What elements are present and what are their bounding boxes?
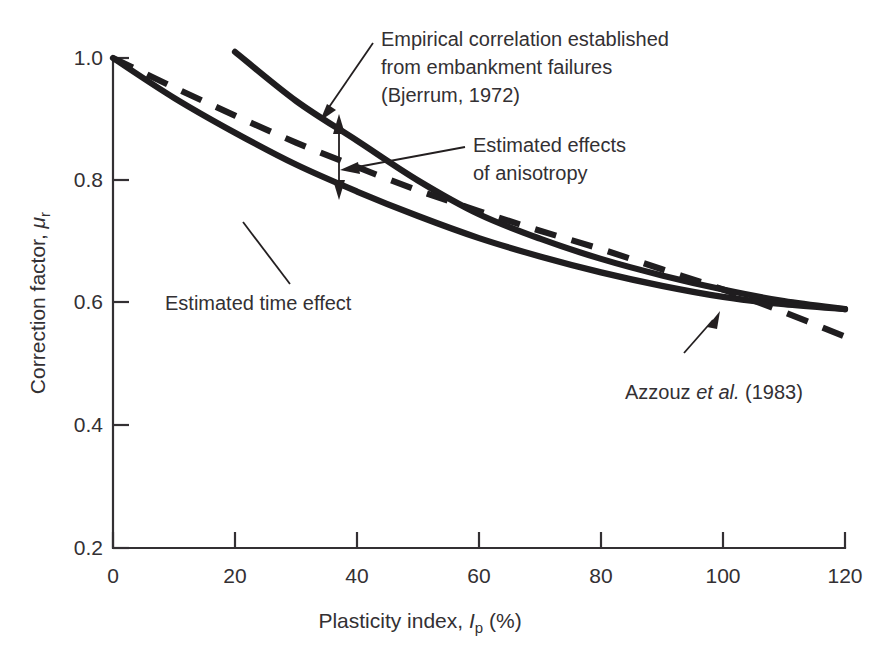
y-tick-label: 0.8 — [74, 168, 103, 191]
x-axis-ticks — [113, 532, 845, 548]
anisotropy-annotation-line-2: of anisotropy — [473, 162, 588, 184]
azzouz-leader-arrow — [684, 311, 720, 353]
x-axis-title-units: (%) — [483, 609, 522, 632]
azzouz-annotation-italic: et al. — [696, 381, 739, 403]
axes-group: 1.0 0.8 0.6 0.4 0.2 0 20 40 60 80 100 12… — [26, 46, 863, 636]
figure-container: 1.0 0.8 0.6 0.4 0.2 0 20 40 60 80 100 12… — [0, 0, 888, 662]
y-axis-tick-labels: 1.0 0.8 0.6 0.4 0.2 — [74, 46, 104, 559]
y-axis-title-symbol: μ — [26, 216, 49, 229]
correction-factor-chart: 1.0 0.8 0.6 0.4 0.2 0 20 40 60 80 100 12… — [0, 0, 888, 662]
x-axis-tick-labels: 0 20 40 60 80 100 120 — [107, 564, 862, 587]
y-tick-label: 0.4 — [74, 413, 104, 436]
x-axis-title-subscript: p — [475, 619, 483, 636]
y-tick-label: 0.2 — [74, 536, 103, 559]
y-axis-ticks — [113, 58, 129, 548]
y-axis-title: Correction factor, μr — [26, 212, 53, 394]
y-tick-label: 1.0 — [74, 46, 103, 69]
y-axis-title-subscript: r — [36, 212, 53, 217]
x-tick-label: 20 — [223, 564, 246, 587]
x-axis-title-text: Plasticity index, — [318, 609, 469, 632]
bjerrum-leader-arrow — [320, 43, 373, 121]
y-axis-title-text: Correction factor, — [26, 228, 49, 394]
bjerrum-annotation-line-2: from embankment failures — [381, 56, 612, 78]
x-tick-label: 100 — [705, 564, 740, 587]
x-tick-label: 120 — [827, 564, 862, 587]
azzouz-annotation-pre: Azzouz — [625, 381, 696, 403]
anisotropy-annotation-line-1: Estimated effects — [473, 134, 626, 156]
bjerrum-annotation-line-3: (Bjerrum, 1972) — [381, 84, 520, 106]
x-tick-label: 80 — [589, 564, 612, 587]
x-axis-title: Plasticity index, Ip (%) — [318, 609, 521, 636]
time-effect-leader — [243, 222, 290, 284]
x-tick-label: 40 — [345, 564, 368, 587]
x-tick-label: 0 — [107, 564, 119, 587]
azzouz-annotation-post: (1983) — [740, 381, 803, 403]
azzouz-annotation: Azzouz et al. (1983) — [625, 381, 803, 403]
time-effect-annotation: Estimated time effect — [165, 292, 352, 314]
bjerrum-annotation-line-1: Empirical correlation established — [381, 28, 669, 50]
x-tick-label: 60 — [467, 564, 490, 587]
y-tick-label: 0.6 — [74, 290, 103, 313]
svg-text:Plasticity index, Ip (%): Plasticity index, Ip (%) — [318, 609, 521, 636]
svg-text:Correction factor, μr: Correction factor, μr — [26, 212, 53, 394]
